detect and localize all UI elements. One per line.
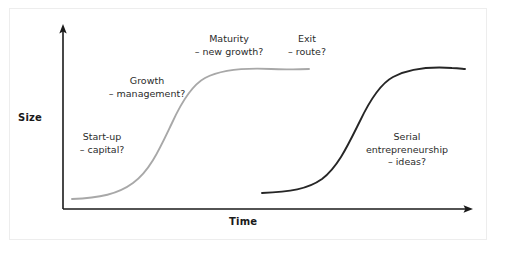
annotation-exit-line2: – route? (277, 46, 337, 59)
annotation-start-up-line2: – capital? (62, 144, 142, 157)
annotation-maturity: Maturity – new growth? (183, 33, 275, 58)
annotation-maturity-line2: – new growth? (183, 46, 275, 59)
x-axis-label: Time (229, 216, 257, 227)
annotation-growth: Growth – management? (95, 75, 199, 100)
annotation-start-up-line1: Start-up (62, 131, 142, 144)
figure-root: Size Time Start-up – capital? Growth – m… (0, 0, 505, 258)
annotation-exit: Exit – route? (277, 33, 337, 58)
annotation-growth-line1: Growth (95, 75, 199, 88)
annotation-start-up: Start-up – capital? (62, 131, 142, 156)
annotation-serial-line1: Serial (355, 131, 459, 144)
annotation-growth-line2: – management? (95, 88, 199, 101)
annotation-exit-line1: Exit (277, 33, 337, 46)
annotation-serial-line2: entrepreneurship (355, 144, 459, 157)
annotation-serial-line3: – ideas? (355, 156, 459, 169)
y-axis-label: Size (18, 112, 42, 123)
annotation-maturity-line1: Maturity (183, 33, 275, 46)
annotation-serial-entrepreneurship: Serial entrepreneurship – ideas? (355, 131, 459, 169)
